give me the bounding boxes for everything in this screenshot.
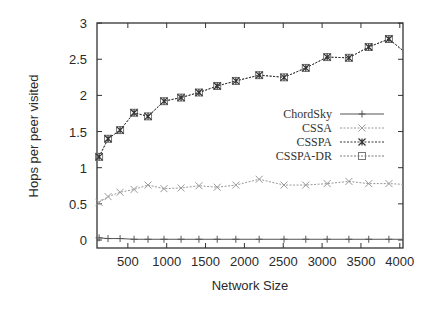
y-tick-label: 2.5 bbox=[69, 52, 87, 67]
y-tick-label: 0.5 bbox=[69, 197, 87, 212]
series-cssa bbox=[96, 176, 403, 206]
legend-label: ChordSky bbox=[283, 107, 332, 121]
legend: ChordSkyCSSACSSPACSSPA-DR bbox=[276, 107, 384, 163]
x-tick-label: 4000 bbox=[385, 254, 414, 269]
series-csspa-dr bbox=[96, 36, 403, 161]
x-tick-label: 500 bbox=[117, 254, 139, 269]
y-tick-label: 3 bbox=[80, 16, 87, 31]
y-axis-ticks: 00.511.522.53 bbox=[69, 16, 403, 248]
y-tick-label: 0 bbox=[80, 233, 87, 248]
x-tick-label: 1500 bbox=[191, 254, 220, 269]
x-axis-title: Network Size bbox=[212, 278, 289, 293]
y-tick-label: 2 bbox=[80, 88, 87, 103]
series-layer bbox=[96, 36, 403, 243]
y-tick-label: 1.5 bbox=[69, 125, 87, 140]
x-tick-label: 3000 bbox=[308, 254, 337, 269]
plot-frame bbox=[97, 23, 403, 248]
x-tick-label: 2500 bbox=[269, 254, 298, 269]
x-tick-label: 2000 bbox=[230, 254, 259, 269]
series-chordsky bbox=[96, 234, 403, 242]
legend-item-csspa-dr: CSSPA-DR bbox=[276, 149, 384, 163]
line-chart: 00.511.522.53 50010001500200025003000350… bbox=[0, 0, 446, 312]
plot-border bbox=[97, 23, 403, 248]
x-tick-label: 3500 bbox=[346, 254, 375, 269]
y-tick-label: 1 bbox=[80, 161, 87, 176]
legend-label: CSSPA-DR bbox=[276, 149, 332, 163]
legend-item-csspa: CSSPA bbox=[296, 135, 384, 149]
legend-label: CSSPA bbox=[296, 135, 332, 149]
series-csspa bbox=[96, 36, 403, 161]
legend-item-cssa: CSSA bbox=[302, 121, 384, 135]
legend-item-chordsky: ChordSky bbox=[283, 107, 384, 121]
legend-label: CSSA bbox=[302, 121, 332, 135]
y-axis-title: Hops per peer visited bbox=[26, 75, 41, 198]
x-tick-label: 1000 bbox=[152, 254, 181, 269]
x-axis-ticks: 5001000150020002500300035004000 bbox=[117, 23, 414, 269]
